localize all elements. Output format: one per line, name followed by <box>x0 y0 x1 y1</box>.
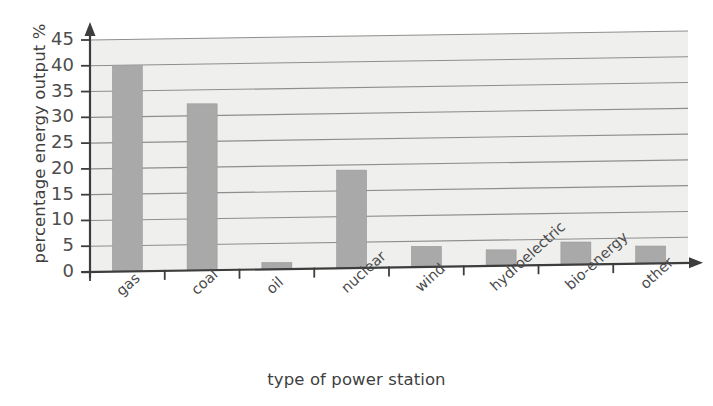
y-axis-arrow-icon <box>85 22 96 36</box>
bar-coal <box>187 104 217 271</box>
bar-chart: percentage energy output % 0510152025303… <box>0 0 713 406</box>
x-axis-title: type of power station <box>0 370 713 389</box>
y-tick-label: 30 <box>40 107 74 125</box>
bar-gas <box>112 65 142 271</box>
y-tick-label: 35 <box>40 82 74 100</box>
plot-background <box>90 31 688 272</box>
plot-area <box>0 0 713 406</box>
y-tick-label: 25 <box>40 133 74 151</box>
y-tick-label: 20 <box>40 159 74 177</box>
bar-nuclear <box>337 170 367 268</box>
y-tick-label: 45 <box>40 30 74 48</box>
y-tick-label: 0 <box>40 262 74 280</box>
y-tick-label: 40 <box>40 56 74 74</box>
y-tick-label: 10 <box>40 210 74 228</box>
x-axis-arrow-icon <box>689 257 703 268</box>
y-tick-label: 15 <box>40 185 74 203</box>
y-tick-label: 5 <box>40 236 74 254</box>
